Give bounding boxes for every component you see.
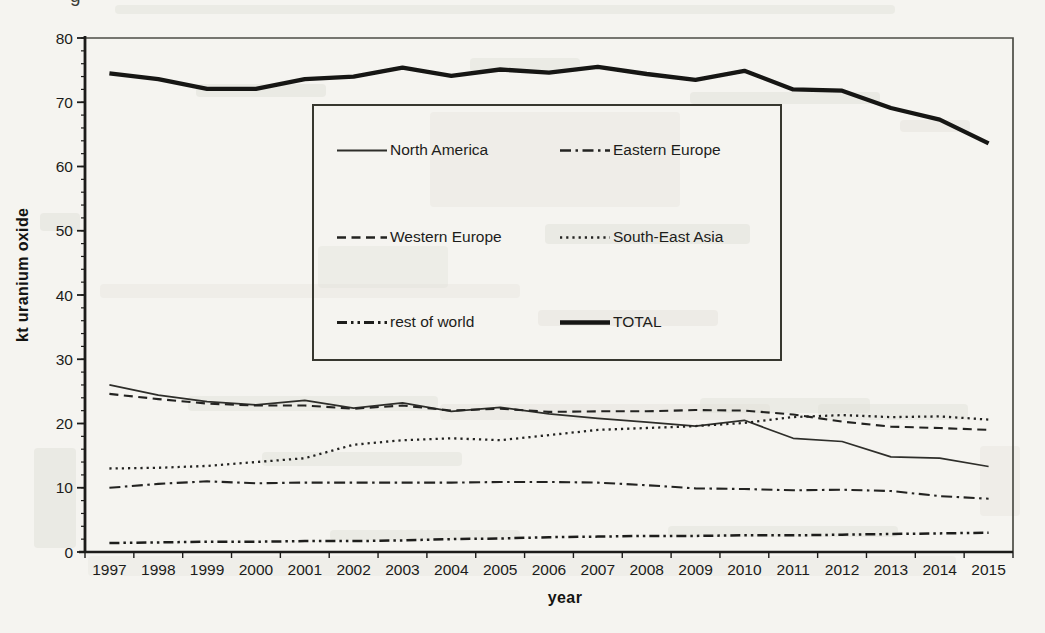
svg-text:80: 80 [56, 30, 74, 47]
legend-item-rest-of-world: rest of world [337, 312, 474, 332]
legend-line-sample [337, 145, 387, 156]
legend-label: South-East Asia [613, 228, 723, 246]
svg-text:2009: 2009 [678, 561, 712, 578]
series-line-north-america [109, 385, 988, 467]
series-line-rest-of-world [109, 533, 988, 543]
svg-text:2001: 2001 [288, 561, 322, 578]
svg-text:1999: 1999 [190, 561, 224, 578]
svg-text:1998: 1998 [141, 561, 175, 578]
y-axis-title: kt uranium oxide [14, 160, 36, 390]
svg-text:1997: 1997 [92, 561, 126, 578]
svg-text:40: 40 [56, 287, 74, 304]
legend-label: Eastern Europe [613, 141, 721, 159]
svg-text:2005: 2005 [483, 561, 517, 578]
svg-text:2007: 2007 [581, 561, 615, 578]
svg-text:70: 70 [56, 94, 74, 111]
legend-line-sample [560, 317, 610, 328]
series-line-western-europe [109, 394, 988, 430]
svg-text:60: 60 [56, 158, 74, 175]
svg-text:2011: 2011 [777, 561, 810, 578]
svg-text:50: 50 [56, 222, 74, 239]
svg-text:2010: 2010 [727, 561, 762, 578]
scanned-chart-page: g 01020304050607080199719981999200020012… [0, 0, 1045, 633]
svg-text:2008: 2008 [629, 561, 663, 578]
svg-text:2015: 2015 [971, 561, 1005, 578]
svg-text:2002: 2002 [336, 561, 370, 578]
legend-label: North America [390, 141, 488, 159]
series-line-south-east-asia [109, 415, 988, 468]
legend-item-north-america: North America [337, 140, 488, 160]
svg-text:2000: 2000 [239, 561, 274, 578]
svg-text:30: 30 [56, 351, 74, 368]
svg-text:0: 0 [64, 544, 73, 561]
svg-text:2012: 2012 [825, 561, 859, 578]
svg-text:2004: 2004 [434, 561, 469, 578]
legend-item-western-europe: Western Europe [337, 227, 502, 247]
svg-text:20: 20 [56, 415, 74, 432]
svg-text:10: 10 [56, 479, 74, 496]
legend-item-south-east-asia: South-East Asia [560, 227, 723, 247]
legend-line-sample [560, 232, 610, 243]
x-axis-title: year [520, 589, 610, 607]
svg-text:2006: 2006 [532, 561, 566, 578]
svg-text:2014: 2014 [922, 561, 957, 578]
svg-text:2013: 2013 [874, 561, 908, 578]
legend-line-sample [337, 317, 387, 328]
legend-item-eastern-europe: Eastern Europe [560, 140, 721, 160]
svg-text:2003: 2003 [385, 561, 419, 578]
legend-line-sample [560, 145, 610, 156]
legend-label: rest of world [390, 313, 474, 331]
legend-label: TOTAL [613, 313, 662, 331]
legend-item-total: TOTAL [560, 312, 662, 332]
legend-line-sample [337, 232, 387, 243]
legend-label: Western Europe [390, 228, 502, 246]
chart-legend: North America Eastern Europe Western Eur… [312, 104, 782, 361]
series-line-eastern-europe [109, 481, 988, 498]
